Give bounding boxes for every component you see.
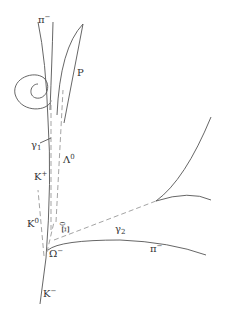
gamma2-positron-track (156, 195, 211, 201)
gamma2-path (54, 201, 156, 240)
pi-minus-top-track (50, 22, 53, 110)
particle-track-diagram: π− P γ1 Λ0 K+ γ2 K0 Ξ0 Ω− π− K− (0, 0, 225, 322)
label-xi0: Ξ0 (59, 221, 71, 233)
label-proton: P (77, 67, 84, 78)
label-lambda0: Λ0 (62, 153, 75, 165)
k-plus-track (38, 22, 50, 258)
label-k-plus: K+ (34, 170, 47, 182)
label-gamma2: γ2 (115, 223, 125, 236)
pi-minus-right-track (48, 240, 206, 255)
gamma2-electron-track (156, 117, 211, 201)
label-omega-minus: Ω− (49, 247, 63, 259)
label-k0: K0 (27, 217, 39, 229)
label-gamma1: γ1 (31, 139, 41, 152)
label-pi-minus-right: π− (150, 242, 163, 254)
label-k-minus: K− (43, 287, 56, 299)
label-pi-minus-top: π− (38, 13, 51, 25)
electron-spiral-track (15, 75, 50, 109)
